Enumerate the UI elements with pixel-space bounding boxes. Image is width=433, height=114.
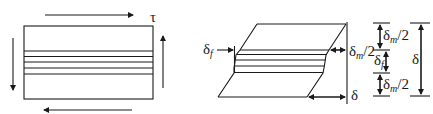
fiber-layers-left: [24, 51, 153, 74]
fiber-displacement-label: δf: [203, 42, 213, 59]
deformed-element: [218, 22, 347, 104]
fiber-layers-right: [234, 50, 329, 73]
stack-total-label: δ: [412, 52, 419, 67]
total-displacement-label: δ: [351, 88, 358, 103]
shear-stress-label: τ: [150, 10, 156, 25]
stack-matrix-half-top-label: δm/2: [383, 28, 409, 45]
matrix-half-displacement-label: δm/2: [349, 44, 375, 61]
stack-fiber-label: δf: [374, 53, 384, 70]
shear-deformation-diagram: τ δf δm/2 δ δm/2 δf δm/2 δ: [0, 0, 433, 114]
stack-matrix-half-bottom-label: δm/2: [383, 77, 409, 94]
